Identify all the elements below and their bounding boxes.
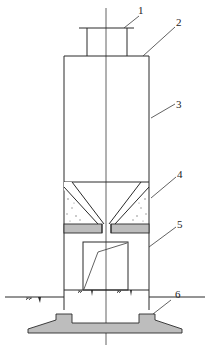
silo-diagram: 1 2 3 4 5 6 (0, 0, 210, 350)
ground-symbols-inner (78, 290, 132, 296)
label-2: 2 (176, 16, 182, 28)
silo-body (64, 56, 149, 310)
label-4: 4 (177, 168, 183, 180)
support-frame (64, 242, 149, 296)
label-6: 6 (175, 288, 181, 300)
label-3: 3 (176, 98, 182, 110)
hopper (64, 182, 149, 224)
label-5: 5 (177, 218, 183, 230)
label-1: 1 (138, 4, 144, 16)
top-cap (79, 28, 134, 56)
foundation (28, 314, 182, 333)
leader-lines (124, 16, 176, 314)
concrete-fill-right (132, 198, 146, 221)
support-slab (64, 224, 149, 233)
